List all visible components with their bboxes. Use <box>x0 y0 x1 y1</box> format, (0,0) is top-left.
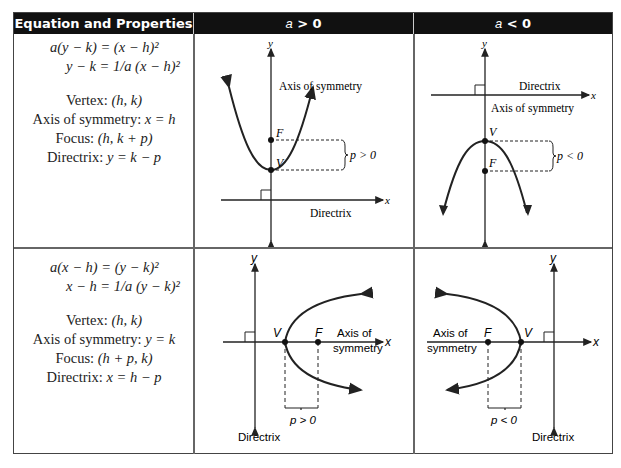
property-focus: Focus: (h, k + p) <box>14 129 194 148</box>
property-axis: Axis of symmetry: y = k <box>14 330 194 349</box>
properties-vertical: Vertex: (h, k) Axis of symmetry: x = h F… <box>14 91 194 167</box>
header-var: a <box>285 16 292 31</box>
directrix-label: Directrix <box>519 80 561 92</box>
right-angle-icon <box>261 190 271 200</box>
vertex-label: V <box>489 125 498 139</box>
diagram-vertical-down: y x V F p < 0 Axis of symmetry Directrix <box>413 33 613 247</box>
header-op: < <box>502 16 522 31</box>
x-axis-label: x <box>590 89 596 101</box>
property-axis: Axis of symmetry: x = h <box>14 110 194 129</box>
table-header: Equation and Properties a > 0 a < 0 <box>14 13 612 34</box>
equation-horizontal-solved: x − h = 1/a (y − k)² <box>66 278 180 295</box>
vertex-label: V <box>273 326 282 340</box>
p-label: p < 0 <box>556 149 583 163</box>
property-vertex: Vertex: (h, k) <box>14 91 194 110</box>
axis-of-symmetry-label: symmetry <box>427 342 477 354</box>
equation-vertical-form: a(y − k) = (x − h)² <box>50 39 159 56</box>
x-axis-label: x <box>384 335 392 349</box>
focus-label: F <box>275 126 284 140</box>
directrix-label: Directrix <box>310 207 352 219</box>
diagram-vertical-up: y x F V p > 0 Axis of symmetry Directrix <box>193 33 413 247</box>
x-axis-label: x <box>384 194 390 206</box>
y-axis-label: y <box>250 251 258 265</box>
focus-point <box>268 137 274 143</box>
focus-label: F <box>488 156 497 170</box>
header-val: 0 <box>522 16 531 31</box>
p-brace <box>488 408 521 410</box>
right-angle-icon <box>544 332 554 342</box>
y-axis-label: y <box>549 251 557 265</box>
directrix-label: Directrix <box>238 431 280 443</box>
p-brace <box>341 140 348 170</box>
header-a-negative: a < 0 <box>414 13 612 34</box>
property-directrix: Directrix: y = k − p <box>14 148 194 167</box>
axis-of-symmetry-label: Axis of symmetry <box>279 80 362 93</box>
right-angle-icon <box>245 332 255 342</box>
properties-horizontal: Vertex: (h, k) Axis of symmetry: y = k F… <box>14 311 194 387</box>
p-brace <box>549 141 556 171</box>
axis-of-symmetry-label: Axis of <box>337 327 372 339</box>
header-op: > <box>293 16 313 31</box>
p-label: p < 0 <box>490 414 518 426</box>
property-directrix: Directrix: x = h − p <box>14 368 194 387</box>
equation-horizontal-form: a(x − h) = (y − k)² <box>50 259 159 276</box>
header-label: Equation and Properties <box>14 16 192 31</box>
directrix-label: Directrix <box>532 431 574 443</box>
right-angle-icon <box>475 85 485 95</box>
y-axis-label: y <box>267 37 273 49</box>
focus-label: F <box>484 326 492 340</box>
header-val: 0 <box>313 16 322 31</box>
vertex-point <box>482 138 488 144</box>
diagram-horizontal-left: y x V F Axis of symmetry p < 0 Directrix <box>413 248 613 454</box>
axis-of-symmetry-label: symmetry <box>333 342 383 354</box>
property-focus: Focus: (h + p, k) <box>14 349 194 368</box>
property-vertex: Vertex: (h, k) <box>14 311 194 330</box>
header-equation-properties: Equation and Properties <box>14 13 194 34</box>
focus-point <box>482 168 488 174</box>
p-brace <box>285 408 318 410</box>
y-axis-label: y <box>481 37 487 49</box>
focus-label: F <box>315 326 323 340</box>
axis-of-symmetry-label: Axis of symmetry <box>491 102 574 115</box>
p-label: p > 0 <box>349 148 376 162</box>
p-label: p > 0 <box>289 414 317 426</box>
diagram-horizontal-right: y x V F Axis of symmetry p > 0 Directrix <box>193 248 413 454</box>
equation-vertical-solved: y − k = 1/a (x − h)² <box>66 58 180 75</box>
vertex-label: V <box>524 326 533 340</box>
vertex-point <box>282 339 288 345</box>
x-axis-label: x <box>592 335 600 349</box>
vertex-point <box>268 167 274 173</box>
axis-of-symmetry-label: Axis of <box>433 327 468 339</box>
header-a-positive: a > 0 <box>194 13 414 34</box>
